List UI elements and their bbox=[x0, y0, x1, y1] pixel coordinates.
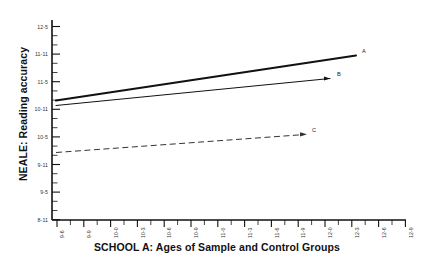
y-tick-label: 8-11 bbox=[20, 217, 48, 223]
series-b-arrowhead bbox=[324, 76, 330, 80]
x-tick-label: 10-9 bbox=[193, 227, 199, 238]
x-tick-label: 12-0 bbox=[327, 227, 333, 238]
y-tick-label: 11-5 bbox=[20, 79, 48, 85]
y-tick-label: 9-11 bbox=[20, 162, 48, 168]
y-tick-label: 10-11 bbox=[20, 106, 48, 112]
y-tick-label: 9-5 bbox=[20, 189, 48, 195]
y-major-ticks bbox=[52, 27, 60, 220]
chart-figure: NEALE: Reading accuracy SCHOOL A: Ages o… bbox=[0, 0, 434, 263]
x-tick-label: 11-6 bbox=[274, 228, 280, 238]
series-c-arrowhead bbox=[300, 132, 307, 136]
series-label-b: B bbox=[337, 71, 341, 77]
x-tick-label: 10-0 bbox=[113, 227, 119, 238]
series-line-c bbox=[56, 135, 305, 153]
x-tick-label: 11-3 bbox=[247, 228, 253, 238]
series-line-a bbox=[56, 56, 356, 101]
x-tick-label: 11-0 bbox=[220, 228, 226, 238]
x-tick-label: 12-3 bbox=[354, 227, 360, 238]
y-tick-label: 11-11 bbox=[20, 51, 48, 57]
series-line-b bbox=[56, 79, 330, 106]
x-tick-label: 10-6 bbox=[166, 227, 172, 238]
series-label-a: A bbox=[362, 48, 366, 54]
x-tick-label: 11-9 bbox=[300, 228, 306, 238]
x-tick-label: 12-9 bbox=[408, 227, 414, 238]
x-axis-title: SCHOOL A: Ages of Sample and Control Gro… bbox=[0, 241, 434, 253]
x-tick-label: 9-6 bbox=[59, 230, 65, 238]
y-tick-label: 12-5 bbox=[20, 24, 48, 30]
x-tick-label: 9-9 bbox=[86, 230, 92, 238]
x-tick-label: 12-6 bbox=[381, 227, 387, 238]
plot-area bbox=[0, 0, 434, 263]
series-label-c: C bbox=[312, 127, 316, 133]
y-minor-ticks bbox=[52, 36, 58, 211]
x-tick-label: 10-3 bbox=[140, 227, 146, 238]
y-tick-label: 10-5 bbox=[20, 134, 48, 140]
